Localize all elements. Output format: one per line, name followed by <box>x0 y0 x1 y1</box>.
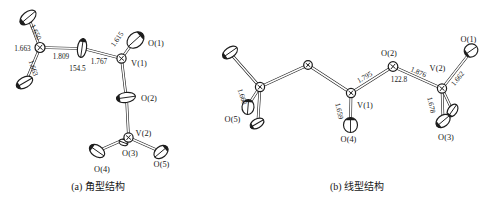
o2-atom-marker <box>388 62 398 72</box>
v1-atom-marker <box>117 54 126 63</box>
v2-atom-marker <box>124 133 133 142</box>
atom-marker <box>255 82 264 91</box>
bond-length-label: 1.663 <box>14 44 31 53</box>
atom-label-o4: O(4) <box>341 135 357 144</box>
o4-ellipsoid <box>87 142 107 161</box>
o5-ellipsoid <box>151 143 170 162</box>
bond-angle-label: 154.5 <box>69 64 86 73</box>
atom-label-o1: O(1) <box>461 35 477 44</box>
atom-label-v2: V(2) <box>136 129 152 138</box>
panel-b-caption: (b) 线型结构 <box>330 180 384 193</box>
o2-ellipsoid <box>116 91 136 104</box>
bond-core <box>122 59 127 97</box>
bond-core <box>231 54 260 87</box>
v1-atom-marker <box>346 88 355 97</box>
atom-label-o5: O(5) <box>225 115 241 124</box>
bond-length-label: 1.615 <box>109 29 126 48</box>
o1-ellipsoid <box>462 41 481 60</box>
atom-marker <box>35 43 45 53</box>
bond-length-label: 1.668 <box>236 87 250 106</box>
v2-atom-marker <box>437 84 446 93</box>
panel-a-atoms <box>35 43 133 143</box>
atom-label-v1: V(1) <box>357 101 373 110</box>
bond-angle-label: 122.8 <box>391 75 408 84</box>
atom-label-o2: O(2) <box>141 94 157 103</box>
bond-length-label: 1.662 <box>449 69 467 88</box>
thermal-ellipsoid <box>248 116 265 131</box>
atom-label-o2: O(2) <box>381 49 397 58</box>
panel-a-structure: 1.650 1.663 1.663 1.809 1.767 154.5 1.61… <box>14 7 171 193</box>
bond-length-label: 1.650 <box>28 23 43 42</box>
bond-length-label: 1.767 <box>91 57 108 66</box>
molecular-structures-canvas: 1.650 1.663 1.663 1.809 1.767 154.5 1.61… <box>0 0 489 200</box>
bridge-oxygen-ellipsoid <box>76 38 88 58</box>
bond-length-label: 1.809 <box>53 52 70 61</box>
atom-label-v2: V(2) <box>430 64 446 73</box>
bond-core <box>260 65 308 87</box>
bond-core <box>40 48 81 49</box>
atom-label-o5: O(5) <box>154 160 170 169</box>
atom-label-o1: O(1) <box>148 39 164 48</box>
bond-core <box>127 98 129 137</box>
atom-label-o4: O(4) <box>94 165 110 174</box>
panel-a-caption: (a) 角型结构 <box>71 180 125 193</box>
atom-label-v1: V(1) <box>131 59 147 68</box>
bond-length-label: 1.795 <box>355 69 374 85</box>
panel-b-structure: 1.668 O(5) 1.795 O(2) 122.8 1.876 V(2) O… <box>220 35 480 194</box>
o4-ellipsoid <box>344 118 358 133</box>
bridge-atom-marker <box>304 61 313 70</box>
bond-length-label: 1.659 <box>333 102 345 120</box>
atom-label-o3: O(3) <box>122 149 138 158</box>
bond-length-label: 1.678 <box>425 96 437 114</box>
ortep-figure: 1.650 1.663 1.663 1.809 1.767 154.5 1.61… <box>0 0 489 200</box>
bond-core <box>308 65 351 93</box>
atom-label-o3: O(3) <box>438 133 454 142</box>
